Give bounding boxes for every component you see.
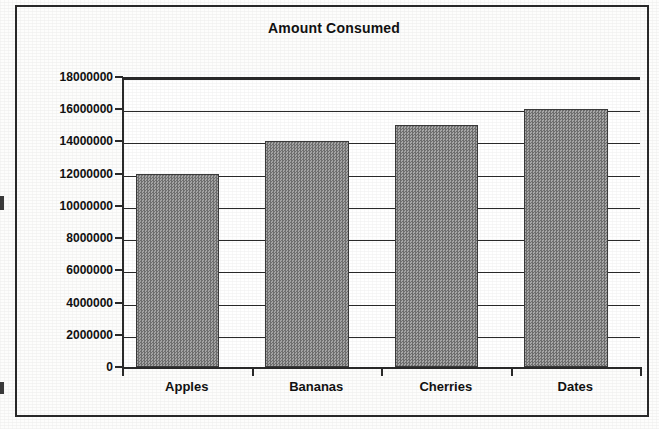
- scan-artifact-mark: [0, 382, 4, 394]
- y-axis-tick: [115, 269, 123, 271]
- x-axis-tick: [381, 367, 383, 376]
- y-axis-tick: [115, 173, 123, 175]
- y-axis-tick: [115, 76, 123, 78]
- y-axis-tick-label: 4000000: [23, 296, 113, 310]
- plot-area: [122, 77, 640, 367]
- y-axis-labels: 0200000040000006000000800000010000000120…: [17, 7, 113, 419]
- y-axis-tick: [115, 205, 123, 207]
- y-axis-tick: [115, 302, 123, 304]
- x-axis-label-bananas: Bananas: [252, 379, 382, 394]
- y-axis-tick-label: 8000000: [23, 231, 113, 245]
- y-axis-tick-label: 6000000: [23, 263, 113, 277]
- y-axis-tick-label: 16000000: [23, 102, 113, 116]
- x-axis-label-cherries: Cherries: [381, 379, 511, 394]
- x-axis-tick: [511, 367, 513, 376]
- bar-apples: [136, 174, 220, 367]
- y-axis-tick: [115, 334, 123, 336]
- scanned-chart-page: Amount Consumed 020000004000000600000080…: [0, 0, 659, 429]
- y-axis-tick-label: 0: [23, 360, 113, 374]
- y-axis-tick: [115, 237, 123, 239]
- x-axis-tick: [252, 367, 254, 376]
- y-axis-tick-label: 14000000: [23, 134, 113, 148]
- y-axis-tick-label: 10000000: [23, 199, 113, 213]
- bar-bananas: [265, 141, 349, 367]
- x-axis-tick: [122, 367, 124, 376]
- scan-artifact-mark: [0, 196, 4, 210]
- bar-dates: [524, 109, 608, 367]
- y-axis-tick-label: 18000000: [23, 70, 113, 84]
- y-axis-tick: [115, 108, 123, 110]
- y-axis-tick-label: 2000000: [23, 328, 113, 342]
- x-axis-tick: [640, 367, 642, 376]
- chart-border-frame: Amount Consumed 020000004000000600000080…: [15, 5, 649, 417]
- y-axis-tick-label: 12000000: [23, 167, 113, 181]
- y-axis-tick: [115, 140, 123, 142]
- bar-cherries: [395, 125, 479, 367]
- x-axis-label-dates: Dates: [511, 379, 641, 394]
- gridline: [124, 79, 640, 80]
- x-axis-label-apples: Apples: [122, 379, 252, 394]
